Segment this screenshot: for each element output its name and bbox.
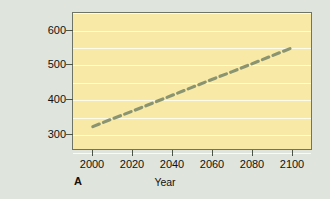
y-tick-label: 500 [48,58,66,70]
series-line [93,48,291,126]
y-tick-mark [66,134,73,135]
panel-label: A [74,175,82,187]
x-tick-mark [292,150,293,156]
y-tick-mark [66,64,73,65]
x-tick-mark [252,150,253,156]
x-tick-mark [132,150,133,156]
y-axis-tick-labels: 300400500600 [36,0,66,199]
figure-panel-a: Atmospheric CO2 (parts per million by vo… [0,0,330,199]
y-tick-label: 600 [48,24,66,36]
y-tick-mark [66,99,73,100]
gridline-minor [73,153,311,154]
x-tick-label: 2040 [160,158,184,170]
x-tick-label: 2060 [200,158,224,170]
x-tick-mark [212,150,213,156]
x-tick-mark [172,150,173,156]
x-tick-label: 2100 [280,158,304,170]
x-tick-label: 2080 [240,158,264,170]
x-tick-mark [92,150,93,156]
y-tick-label: 400 [48,93,66,105]
x-tick-label: 2020 [120,158,144,170]
y-tick-label: 300 [48,128,66,140]
x-tick-label: 2000 [80,158,104,170]
y-tick-mark [66,30,73,31]
series-layer [73,13,311,149]
plot-area [72,12,312,150]
x-axis-title: Year [0,176,330,188]
